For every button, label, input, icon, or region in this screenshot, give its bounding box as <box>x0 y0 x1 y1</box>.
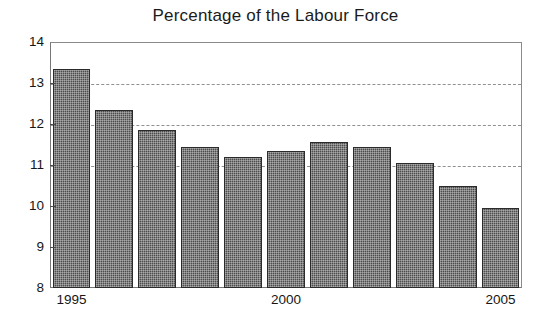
bar <box>482 208 520 288</box>
chart-title: Percentage of the Labour Force <box>0 6 551 26</box>
bar <box>267 151 305 288</box>
x-axis: 199520002005 <box>0 292 551 316</box>
y-tick-mark <box>50 83 56 84</box>
bar <box>138 130 176 288</box>
y-axis: 891011121314 <box>0 42 44 288</box>
y-tick-label: 12 <box>0 117 44 131</box>
bar <box>181 147 219 288</box>
bar <box>224 157 262 288</box>
bar <box>439 186 477 289</box>
y-tick-label: 11 <box>0 158 44 172</box>
bars-group <box>50 42 522 288</box>
y-tick-mark <box>50 165 56 166</box>
y-tick-mark <box>50 124 56 125</box>
y-tick-label: 14 <box>0 35 44 49</box>
x-tick-label: 2000 <box>271 292 301 308</box>
bar <box>396 163 434 288</box>
y-tick-mark <box>50 206 56 207</box>
y-tick-label: 9 <box>0 240 44 254</box>
x-tick-label: 1995 <box>56 292 86 308</box>
bar <box>310 142 348 288</box>
bar-chart-figure: Percentage of the Labour Force 891011121… <box>0 0 551 329</box>
x-tick-label: 2005 <box>486 292 516 308</box>
bar <box>53 69 91 288</box>
y-tick-mark <box>50 247 56 248</box>
y-tick-label: 13 <box>0 76 44 90</box>
bar <box>353 147 391 288</box>
y-tick-label: 10 <box>0 199 44 213</box>
bar <box>95 110 133 288</box>
